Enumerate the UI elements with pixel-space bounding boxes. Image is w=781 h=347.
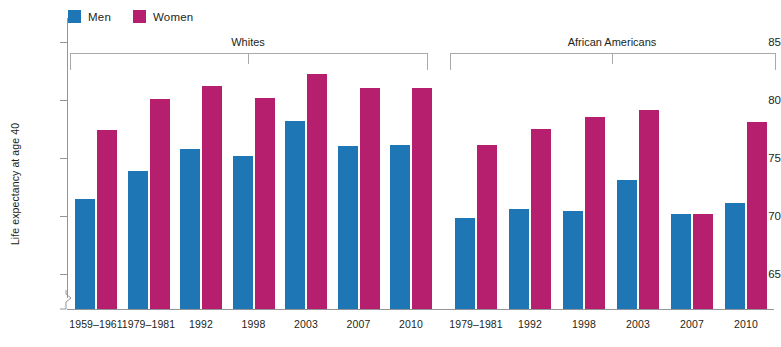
group-title-african-americans: African Americans [568,36,657,48]
bar-women-1998 [585,117,605,309]
grouped-bar-chart: Men Women Life expectancy at age 40 6570… [0,0,781,347]
y-axis-title: Life expectancy at age 40 [9,99,21,269]
bar-women-1979-1981 [150,99,170,309]
bar-men-2003 [285,121,305,309]
bar-men-1992 [180,149,200,309]
bar-women-1959-1961 [97,130,117,309]
x-axis-line [67,309,774,310]
bar-men-1992 [509,209,529,309]
group-bracket [450,53,776,70]
x-axis-tick-label: 2010 [734,318,758,330]
group-title-whites: Whites [231,36,265,48]
x-axis-tick-label: 1998 [242,318,266,330]
x-axis-tick-label: 2007 [347,318,371,330]
bar-women-2003 [639,110,659,309]
y-axis-tick [60,42,68,43]
bar-men-2007 [338,146,358,309]
bar-women-1992 [531,129,551,309]
x-axis-tick-label: 1998 [572,318,596,330]
bar-men-2010 [390,145,410,309]
group-bracket-stem [248,53,249,64]
x-axis-tick-label: 1979–1981 [449,318,502,330]
bar-men-1979-1981 [128,171,148,309]
bar-men-2003 [617,180,637,309]
x-axis-tick-label: 1992 [189,318,213,330]
y-axis-tick [60,274,68,275]
bar-women-2010 [747,122,767,309]
y-axis-tick [60,100,68,101]
y-axis-title-wrap: Life expectancy at age 40 [6,104,24,274]
x-axis-tick-label: 1992 [518,318,542,330]
bar-women-1979-1981 [477,145,497,309]
x-axis-tick-label: 1979–1981 [122,318,175,330]
y-axis-tick [60,158,68,159]
x-axis-tick-label: 2010 [399,318,423,330]
group-bracket [70,53,428,70]
bar-men-1959-1961 [75,199,95,309]
x-axis-tick-label: 2007 [680,318,704,330]
bar-men-2007 [671,214,691,309]
bar-women-2007 [360,88,380,309]
bar-men-2010 [725,203,745,309]
bar-women-2007 [693,214,713,309]
x-axis-tick-label: 2003 [294,318,318,330]
bar-men-1979-1981 [455,218,475,309]
bar-women-1992 [202,86,222,309]
x-axis-tick-label: 2003 [626,318,650,330]
bar-men-1998 [563,211,583,309]
bar-women-2003 [307,74,327,309]
bar-women-1998 [255,98,275,309]
group-bracket-stem [612,53,613,64]
bar-men-1998 [233,156,253,309]
x-axis-tick-label: 1959–1961 [69,318,122,330]
y-axis-tick [60,216,68,217]
bar-women-2010 [412,88,432,309]
